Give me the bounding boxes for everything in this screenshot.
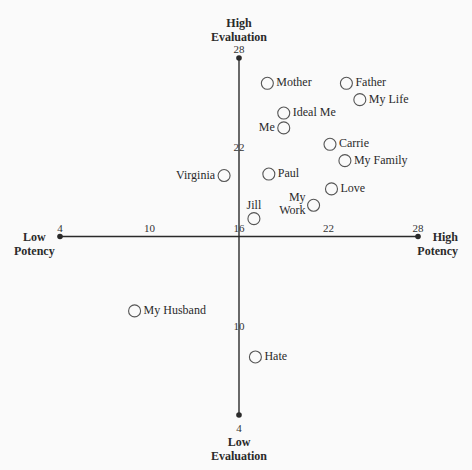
point-label-hate: Hate [264, 350, 287, 363]
point-label-my-life: My Life [369, 93, 409, 106]
point-label-love: Love [340, 182, 365, 195]
data-point-marker [129, 305, 141, 317]
point-label-mother: Mother [276, 76, 311, 89]
data-point-marker [249, 351, 261, 363]
axes [0, 0, 472, 470]
data-point-marker [324, 138, 336, 150]
semantic-differential-chart: 4101622284102228Low PotencyHigh PotencyH… [0, 0, 472, 470]
y-tick-label: 10 [231, 320, 247, 332]
data-point-marker [263, 168, 275, 180]
x-tick-label: 22 [321, 222, 337, 234]
data-point-marker [261, 77, 273, 89]
point-label-paul: Paul [278, 167, 299, 180]
y-tick-label: 4 [231, 422, 247, 434]
y-axis-high-title: High Evaluation [199, 16, 279, 44]
x-axis-min-dot [57, 234, 63, 240]
y-axis-min-dot [236, 412, 242, 418]
point-label-my-family: My Family [354, 154, 408, 167]
x-axis-high-title: High Potency [412, 230, 458, 258]
data-point-marker [218, 170, 230, 182]
data-point-marker [278, 107, 290, 119]
y-axis-low-title: Low Evaluation [199, 435, 279, 463]
point-label-jill: Jill [242, 199, 266, 212]
point-label-ideal-me: Ideal Me [293, 106, 336, 119]
point-label-my-husband: My Husband [144, 304, 206, 317]
x-axis-low-title: Low Potency [14, 230, 55, 258]
point-label-carrie: Carrie [339, 137, 369, 150]
x-tick-label: 10 [142, 222, 158, 234]
data-point-marker [340, 77, 352, 89]
point-label-virginia: Virginia [135, 169, 215, 182]
x-tick-label: 16 [231, 222, 247, 234]
y-axis-max-dot [236, 55, 242, 61]
y-tick-label: 28 [231, 43, 247, 55]
data-point-marker [308, 199, 320, 211]
point-label-father: Father [355, 76, 386, 89]
data-point-marker [339, 155, 351, 167]
data-point-marker [278, 122, 290, 134]
point-label-me: Me [195, 121, 275, 134]
y-tick-label: 22 [231, 141, 247, 153]
data-point-marker [354, 94, 366, 106]
data-point-marker [325, 183, 337, 195]
